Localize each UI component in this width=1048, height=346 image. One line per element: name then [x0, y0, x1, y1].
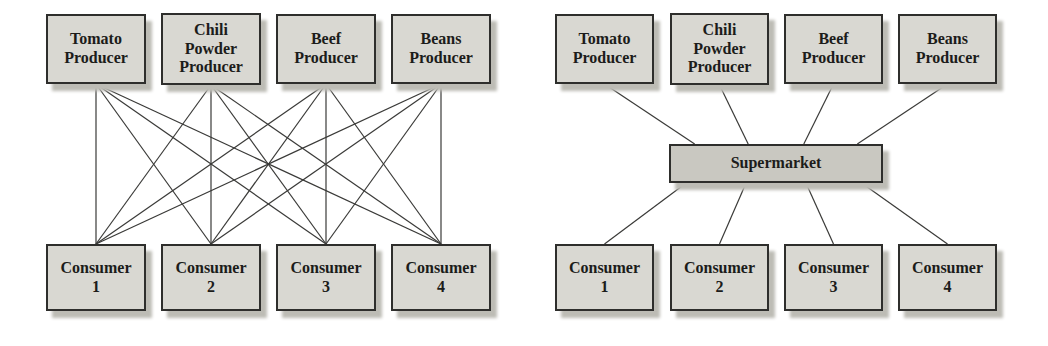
two-panel-market-diagram: Tomato Producer Chili Powder Producer Be…: [0, 0, 1048, 346]
connector-line-p3-m: [804, 84, 834, 144]
connector-line-m-c4: [862, 183, 948, 244]
node-chili-powder-producer: Chili Powder Producer: [161, 13, 261, 85]
node-consumer-2: Consumer 2: [161, 244, 261, 311]
node-tomato-producer: Tomato Producer: [46, 14, 146, 84]
connector-line-m-c1: [605, 183, 687, 244]
node-consumer-3: Consumer 3: [784, 244, 883, 311]
connector-line-p2-m: [720, 85, 749, 144]
connector-line-m-c2: [720, 183, 747, 244]
panel-intermediated-exchange: Tomato Producer Chili Powder Producer Be…: [524, 0, 1048, 346]
node-consumer-1: Consumer 1: [555, 244, 654, 311]
node-beef-producer: Beef Producer: [784, 14, 883, 84]
node-consumer-1: Consumer 1: [46, 244, 146, 311]
node-tomato-producer: Tomato Producer: [555, 14, 654, 84]
node-consumer-4: Consumer 4: [391, 244, 491, 311]
node-beans-producer: Beans Producer: [898, 14, 997, 84]
node-supermarket: Supermarket: [669, 144, 883, 183]
node-chili-powder-producer: Chili Powder Producer: [670, 13, 769, 85]
node-beans-producer: Beans Producer: [391, 14, 491, 84]
node-consumer-2: Consumer 2: [670, 244, 769, 311]
node-beef-producer: Beef Producer: [276, 14, 376, 84]
connector-line-p1-m: [605, 84, 695, 144]
connector-line-m-c3: [806, 183, 834, 244]
node-consumer-4: Consumer 4: [898, 244, 997, 311]
node-consumer-3: Consumer 3: [276, 244, 376, 311]
connector-line-p4-m: [857, 84, 947, 144]
panel-direct-exchange: Tomato Producer Chili Powder Producer Be…: [0, 0, 524, 346]
